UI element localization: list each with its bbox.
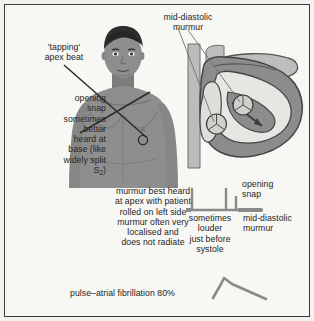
leader-mid-diastolic-murmur-2 <box>178 28 214 122</box>
label-mid-diastolic-murmur-top: mid-diastolic murmur <box>140 12 236 33</box>
label-mid-diastolic-murmur-phono: mid-diastolic murmur <box>243 213 311 234</box>
label-opening-snap-phono: opening snap <box>242 179 308 200</box>
label-pulse-atrial-fibrillation: pulse–atrial fibrillation 80% <box>70 288 216 298</box>
label-sometimes-louder: sometimes louder just before systole <box>176 213 244 254</box>
label-opening-snap-base: opening snap sometimes better heard at b… <box>4 93 106 178</box>
label-opening-snap-base-tail: ) <box>103 165 106 175</box>
label-tapping-apex-beat: 'tapping' apex beat <box>20 42 108 63</box>
mitral-stenosis-figure: 'tapping' apex beat opening snap sometim… <box>0 0 314 321</box>
label-opening-snap-base-text: opening snap sometimes better heard at b… <box>63 93 106 175</box>
leader-mid-diastolic-murmur <box>188 30 240 102</box>
